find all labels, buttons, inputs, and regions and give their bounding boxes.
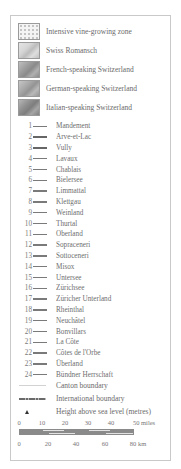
relief-swatch-icon (18, 99, 40, 116)
line-icon (33, 180, 47, 181)
list-item: 17Züricher Unterland (18, 294, 113, 305)
list-item: 22Côtes de l'Orbe (18, 348, 113, 359)
line-icon (33, 277, 47, 278)
dotted-swatch-icon (18, 23, 40, 40)
line-icon (33, 190, 47, 191)
line-icon (33, 320, 47, 321)
km-scale-bar (19, 432, 134, 435)
legend-zone-label: German-speaking Switzerland (46, 84, 137, 93)
line-icon (33, 266, 47, 267)
legend-zone-vine: Intensive vine-growing zone (18, 22, 132, 40)
list-item: 12Sopraceneri (18, 240, 113, 251)
line-icon (33, 288, 47, 289)
wine-region-list: 1Mandement 2Arve-et-Lac 3Vully 4Lavaux 5… (18, 121, 113, 380)
list-item: 6Bielersee (18, 175, 113, 186)
list-item: 20Bonvillars (18, 326, 113, 337)
legend-zone-romansch: Swiss Romansch (18, 41, 97, 59)
legend-zone-german: German-speaking Switzerland (18, 79, 137, 97)
line-icon (33, 298, 47, 299)
triangle-peak-icon (25, 410, 29, 414)
line-icon (33, 158, 47, 159)
legend-canton-boundary: Canton boundary (18, 380, 108, 391)
list-item: 1Mandement (18, 121, 113, 132)
line-icon (33, 223, 47, 224)
line-icon (33, 136, 47, 138)
line-icon (33, 169, 47, 170)
line-icon (33, 147, 47, 149)
relief-swatch-icon (18, 80, 40, 97)
legend-zone-label: French-speaking Switzerland (46, 65, 134, 74)
line-icon (33, 309, 47, 310)
list-item: 18Rheinthal (18, 305, 113, 316)
list-item: 11Oberland (18, 229, 113, 240)
international-boundary-line-icon (19, 398, 46, 400)
line-icon (33, 212, 47, 213)
list-item: 15Untersee (18, 272, 113, 283)
list-item: 14Misox (18, 261, 113, 272)
scale-bar: 0 10 20 30 40 50 miles 0 20 40 60 80 km (17, 419, 152, 455)
legend-zone-italian: Italian-speaking Switzerland (18, 98, 132, 116)
line-icon (33, 342, 47, 343)
legend-height: Height above sea level (metres) (18, 406, 151, 417)
list-item: 24Bündner Herrschaft (18, 369, 113, 380)
list-item: 9Weinland (18, 207, 113, 218)
line-icon (33, 374, 47, 375)
line-icon (33, 126, 47, 127)
list-item: 2Arve-et-Lac (18, 132, 113, 143)
map-legend: Intensive vine-growing zone Swiss Romans… (10, 15, 171, 461)
relief-swatch-icon (18, 42, 40, 59)
list-item: 5Chablais (18, 164, 113, 175)
list-item: 16Zürichsee (18, 283, 113, 294)
list-item: 21La Côte (18, 337, 113, 348)
list-item: 23Überland (18, 359, 113, 370)
list-item: 7Limmattal (18, 186, 113, 197)
legend-zone-label: Intensive vine-growing zone (46, 27, 132, 36)
line-icon (33, 244, 47, 245)
line-icon (33, 352, 47, 353)
canton-boundary-line-icon (19, 385, 46, 386)
list-item: 13Sottoceneri (18, 251, 113, 262)
line-icon (33, 201, 47, 202)
line-icon (33, 363, 47, 364)
legend-zone-label: Swiss Romansch (46, 46, 97, 55)
relief-swatch-icon (18, 61, 40, 78)
line-icon (33, 331, 47, 332)
list-item: 4Lavaux (18, 153, 113, 164)
line-icon (33, 234, 47, 235)
legend-zone-french: French-speaking Switzerland (18, 60, 134, 78)
list-item: 3Vully (18, 143, 113, 154)
legend-zone-label: Italian-speaking Switzerland (46, 103, 132, 112)
legend-international-boundary: International boundary (18, 393, 125, 404)
list-item: 8Klettgau (18, 197, 113, 208)
list-item: 10Thurtal (18, 218, 113, 229)
line-icon (33, 255, 47, 256)
list-item: 19Neuchâtel (18, 315, 113, 326)
